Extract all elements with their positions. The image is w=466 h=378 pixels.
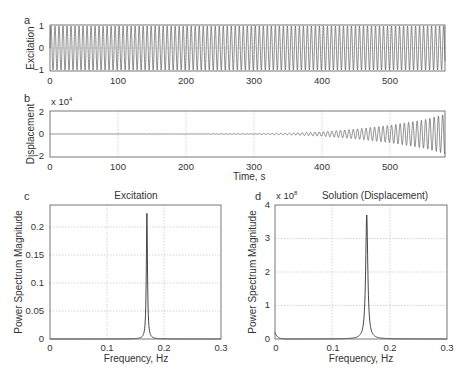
panel-c-grid — [50, 205, 221, 339]
xtick: 0.1 — [326, 342, 339, 353]
ytick: 4 — [265, 199, 270, 210]
xtick: 0.2 — [157, 342, 170, 353]
xtick: 100 — [110, 161, 126, 172]
excitation-spectrum — [50, 213, 221, 339]
y-axis-label: Power Spectrum Magnitude — [13, 210, 24, 334]
xtick: 0 — [273, 342, 278, 353]
ytick: 0.2 — [31, 221, 44, 232]
xtick: 0 — [47, 161, 52, 172]
panel-d-axes — [275, 205, 447, 339]
xtick: 0 — [47, 342, 52, 353]
ytick: 2 — [265, 266, 270, 277]
xtick: 0 — [47, 75, 52, 86]
xtick: 0.1 — [100, 342, 113, 353]
xtick: 200 — [178, 75, 194, 86]
chart-title: Excitation — [114, 190, 157, 201]
figure: a 1 0 −1 0 100 200 300 400 500 Excitatio… — [0, 0, 466, 378]
xtick: 0.3 — [214, 342, 227, 353]
xtick: 400 — [314, 75, 330, 86]
panel-c-axes — [50, 205, 221, 339]
ytick: 1 — [39, 20, 44, 31]
ytick: 0.05 — [26, 305, 45, 316]
y-axis-label: Displacement — [25, 103, 36, 164]
multiplier-b: x 104 — [51, 96, 73, 107]
multiplier-d: x 108 — [276, 190, 298, 201]
panel-b: b x 104 2 0 −2 0 100 200 300 400 500 Tim… — [24, 92, 445, 182]
ytick: 0 — [39, 128, 44, 139]
xtick: 500 — [382, 161, 398, 172]
xtick: 0.2 — [383, 342, 396, 353]
xtick: 300 — [246, 75, 262, 86]
displacement-signal — [50, 115, 445, 154]
displacement-spectrum — [275, 215, 447, 339]
panel-d: d x 108 Solution (Displacement) 4 3 2 1 … — [247, 190, 454, 364]
ytick: 0.15 — [26, 249, 45, 260]
xtick: 0.3 — [440, 342, 453, 353]
ytick: 0.1 — [31, 277, 44, 288]
xtick: 400 — [314, 161, 330, 172]
panel-c: c Excitation 0.2 0.15 0.1 0.05 0 0 0.1 0… — [13, 190, 228, 364]
ytick: 1 — [265, 299, 270, 310]
chart-title: Solution (Displacement) — [322, 190, 428, 201]
xtick: 200 — [178, 161, 194, 172]
ytick: 0 — [39, 42, 44, 53]
y-axis-label: Excitation — [25, 26, 36, 69]
y-axis-label: Power Spectrum Magnitude — [247, 210, 258, 334]
x-axis-label: Frequency, Hz — [329, 353, 393, 364]
panel-letter-b: b — [24, 92, 30, 104]
panel-a: a 1 0 −1 0 100 200 300 400 500 Excitatio… — [24, 14, 445, 86]
ytick: 0 — [39, 333, 44, 344]
ytick: 3 — [265, 232, 270, 243]
panel-letter-c: c — [24, 190, 30, 202]
xtick: 500 — [382, 75, 398, 86]
xtick: 100 — [110, 75, 126, 86]
panel-d-grid — [275, 205, 447, 339]
x-axis-label: Frequency, Hz — [104, 353, 168, 364]
excitation-signal — [50, 26, 445, 70]
ytick: 0 — [265, 333, 270, 344]
ytick: 2 — [39, 106, 44, 117]
panel-letter-d: d — [255, 190, 261, 202]
panel-letter-a: a — [24, 14, 31, 26]
x-axis-label: Time, s — [233, 171, 265, 182]
